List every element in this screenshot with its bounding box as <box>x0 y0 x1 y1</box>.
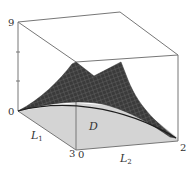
region-label-d: D <box>88 120 98 133</box>
l2-tick-2: 2 <box>180 142 186 153</box>
l1-tick-3: 3 <box>69 148 75 159</box>
z-tick-0: 0 <box>8 106 14 117</box>
axis-label-l2: L2 <box>119 152 132 166</box>
axis-label-l1: L1 <box>30 129 43 143</box>
z-tick-9: 9 <box>8 17 14 28</box>
l2-tick-0: 0 <box>78 149 84 160</box>
surface-plot: 9 0 3 0 2 L1 L2 D <box>0 0 192 172</box>
